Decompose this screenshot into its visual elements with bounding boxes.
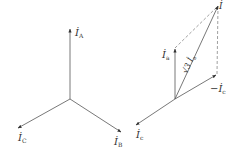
right-phasor-diagram: İa −İc İc İ √3 İa xyxy=(135,0,226,141)
label-IB: İB xyxy=(113,136,123,148)
label-neg-Ic: −İc xyxy=(210,83,226,95)
vector-IB xyxy=(70,99,121,132)
dashed-right xyxy=(217,6,218,74)
label-Ia: İa xyxy=(161,49,170,61)
label-resultant: İ xyxy=(218,0,223,11)
phasor-diagram: İA İC İB İa −İc İc İ √3 İa xyxy=(0,0,230,157)
label-IA: İA xyxy=(74,27,84,39)
label-Ic: İc xyxy=(135,129,144,141)
vector-IC xyxy=(18,99,70,128)
left-star-diagram: İA İC İB xyxy=(17,27,123,148)
dashed-top xyxy=(175,6,218,48)
vector-Ic xyxy=(136,99,175,125)
label-IC: İC xyxy=(17,132,27,144)
label-sqrt3-Ia: √3 İa xyxy=(181,54,198,75)
